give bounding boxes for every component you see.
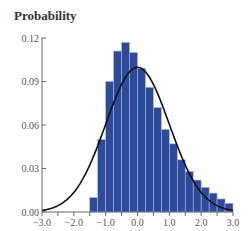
histogram-bar [169,144,177,212]
histogram-bar [145,87,153,212]
histogram-bar [114,51,122,212]
y-tick-label: 0.12 [22,33,40,44]
histogram-bar [106,82,114,213]
histogram-chart: 0.000.030.060.090.12−3.0−2.0−1.00.01.02.… [0,0,250,231]
histogram-bars [90,42,233,212]
y-tick-label: 0.00 [22,207,40,218]
histogram-bar [153,108,161,212]
x-tick-label: 1.0 [163,217,176,228]
x-tick-label: 2.0 [195,217,208,228]
y-tick-label: 0.06 [22,120,40,131]
y-tick-label: 0.03 [22,163,40,174]
x-tick-label: 3.0 [227,217,240,228]
x-tick-label: 0.0 [131,217,144,228]
histogram-bar [161,129,169,212]
x-tick-label: −1.0 [97,217,115,228]
y-tick-label: 0.09 [22,76,40,87]
histogram-bar [90,198,98,213]
x-tick-label: −2.0 [65,217,83,228]
histogram-bar [193,180,201,212]
histogram-bar [177,160,185,212]
histogram-bar [98,140,106,213]
histogram-bar [122,42,130,212]
histogram-bar [130,53,138,213]
x-tick-label: −3.0 [33,217,51,228]
histogram-bar [138,68,146,212]
